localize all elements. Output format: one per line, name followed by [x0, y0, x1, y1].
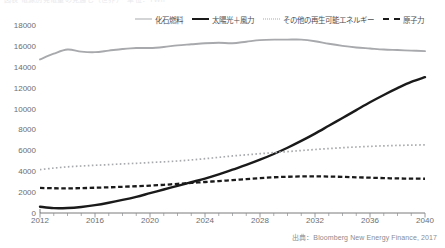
- x-axis-tick-label: 2016: [86, 216, 104, 225]
- x-axis-tick-label: 2012: [31, 216, 49, 225]
- x-axis-tick-label: 2020: [141, 216, 159, 225]
- x-axis-tick-label: 2024: [196, 216, 214, 225]
- x-axis-labels: 20122016202020242028203220362040: [0, 0, 445, 248]
- x-axis-tick-label: 2036: [361, 216, 379, 225]
- x-axis-tick-label: 2032: [306, 216, 324, 225]
- x-axis-tick-label: 2028: [251, 216, 269, 225]
- source-note: 出典：Bloomberg New Energy Finance, 2017: [292, 232, 437, 242]
- chart-figure: 図表 電源別発電量の見通し（世界） 単位：TWh 化石燃料 太陽光＋風力 その他…: [0, 0, 445, 248]
- x-axis-tick-label: 2040: [416, 216, 434, 225]
